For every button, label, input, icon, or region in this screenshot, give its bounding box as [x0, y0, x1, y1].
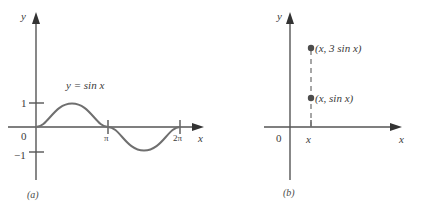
- panel-b-points-graph: [212, 0, 425, 213]
- point-x-sin-x-dot: [308, 95, 314, 101]
- panel-a-caption: (a): [27, 190, 39, 200]
- panel-b-x-tick-label: x: [306, 134, 311, 145]
- point-label-x-sin-x: (x, sin x): [315, 93, 353, 104]
- point-label-x-3sin-x: (x, 3 sin x): [315, 43, 361, 54]
- panel-a-sine-graph: y x y = sin x 1 0 −1 π 2π (a): [0, 0, 213, 213]
- panel-b-origin-label: 0: [276, 133, 282, 144]
- sine-curve-label: y = sin x: [66, 80, 104, 91]
- x-tick-label-pi: π: [104, 134, 109, 143]
- panel-b-y-axis-label: y: [277, 11, 282, 22]
- x-axis-arrowhead: [390, 123, 402, 131]
- point-x-3sin-x-dot: [308, 45, 314, 51]
- origin-label: 0: [21, 131, 27, 142]
- panel-a-plot: [0, 0, 213, 213]
- panel-b-x-axis-label: x: [399, 134, 404, 145]
- panel-a-x-axis-label: x: [198, 133, 203, 144]
- x-axis-arrowhead: [192, 123, 204, 131]
- panel-b-plot: [212, 0, 425, 213]
- figure: y x y = sin x 1 0 −1 π 2π (a) y x: [0, 0, 425, 213]
- y-axis-arrowhead: [286, 12, 294, 24]
- x-tick-label-2pi: 2π: [173, 134, 182, 143]
- y-tick-label-1: 1: [21, 98, 27, 109]
- panel-a-y-axis-label: y: [21, 11, 26, 22]
- y-tick-label-minus-1: −1: [14, 150, 26, 161]
- panel-b-caption: (b): [283, 188, 295, 198]
- y-axis-arrowhead: [32, 12, 40, 24]
